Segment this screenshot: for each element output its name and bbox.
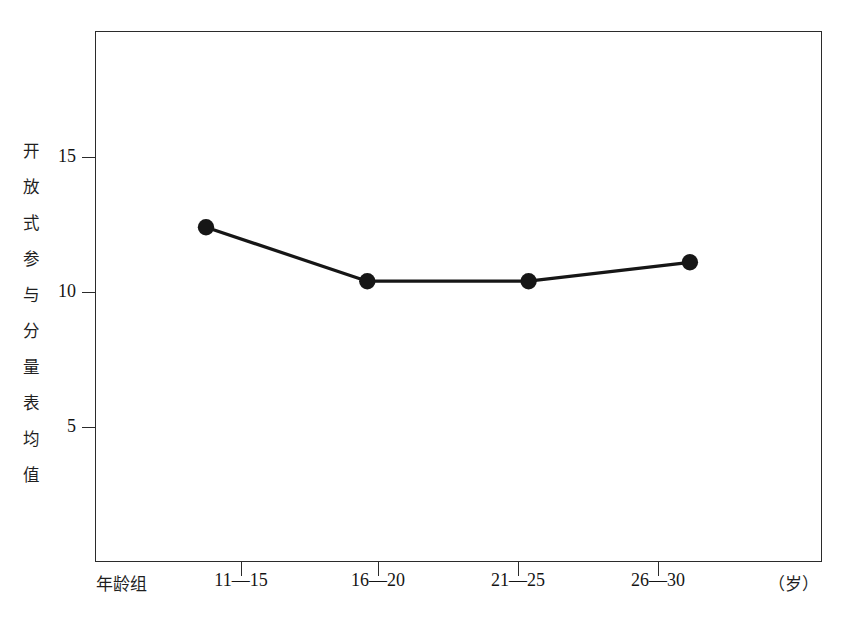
plot-area-frame <box>95 31 822 562</box>
y-tick-label-5: 5 <box>42 416 76 437</box>
y-tick-mark-15 <box>82 157 96 158</box>
y-axis-title: 开 放 式 参 与 分 量 表 均 值 <box>18 134 44 494</box>
y-tick-mark-5 <box>82 427 96 428</box>
x-tick-label-21-25: 21—25 <box>453 570 583 591</box>
y-tick-label-15: 15 <box>42 146 76 167</box>
y-tick-label-10: 10 <box>42 281 76 302</box>
x-tick-label-11-15: 11—15 <box>176 570 306 591</box>
x-tick-label-16-20: 16—20 <box>313 570 443 591</box>
x-axis-unit-label: （岁） <box>768 570 819 595</box>
y-tick-mark-10 <box>82 292 96 293</box>
x-axis-title: 年龄组 <box>96 570 147 595</box>
line-chart-figure: 开 放 式 参 与 分 量 表 均 值 15 10 5 11—15 16—20 … <box>0 0 853 631</box>
x-tick-label-26-30: 26—30 <box>593 570 723 591</box>
